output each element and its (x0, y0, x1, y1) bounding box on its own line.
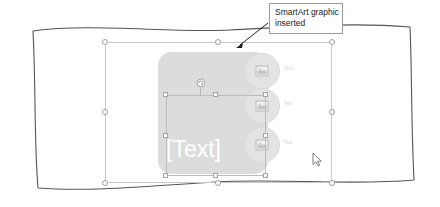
callout-box: SmartArt graphic inserted (269, 3, 343, 34)
mouse-pointer (312, 152, 324, 168)
callout-line-2: inserted (275, 18, 337, 29)
callout-leader-line (0, 0, 440, 207)
screenshot-canvas: [Text] Text Text Text (0, 0, 440, 207)
callout-line-1: SmartArt graphic (275, 7, 337, 18)
